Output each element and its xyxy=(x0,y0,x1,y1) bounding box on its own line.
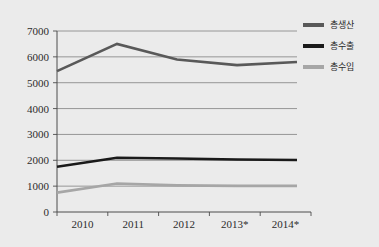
y-axis-tick-label: 7000 xyxy=(27,25,50,37)
y-axis-tick-label: 5000 xyxy=(27,77,50,89)
series-line xyxy=(57,158,297,167)
x-axis-labels: 2010201120122013*2014* xyxy=(71,218,299,230)
legend-label: 총수입 xyxy=(330,63,354,72)
legend-color-swatch xyxy=(303,44,324,48)
series-line xyxy=(57,44,297,71)
x-axis-tick-label: 2014* xyxy=(272,218,300,230)
legend-label: 총수출 xyxy=(330,42,354,51)
y-axis-labels: 01000200030004000500060007000 xyxy=(27,25,50,218)
legend-item-imports[interactable]: 총수입 xyxy=(303,61,354,73)
x-axis-tick-label: 2011 xyxy=(122,218,144,230)
x-axis-tick-label: 2010 xyxy=(71,218,94,230)
legend-color-swatch xyxy=(303,23,324,27)
y-axis-tick-label: 0 xyxy=(44,206,50,218)
legend-label: 총생산 xyxy=(330,21,354,30)
y-axis-tick-label: 3000 xyxy=(27,128,50,140)
y-axis-tick-label: 6000 xyxy=(27,51,50,63)
legend-color-swatch xyxy=(303,65,324,69)
legend-item-exports[interactable]: 총수출 xyxy=(303,40,354,52)
series-line xyxy=(57,184,297,193)
x-axis-tick-label: 2013* xyxy=(221,218,249,230)
chart-container: 01000200030004000500060007000 2010201120… xyxy=(0,0,379,247)
series-lines-group xyxy=(57,44,297,193)
y-axis-tick-label: 2000 xyxy=(27,154,50,166)
chart-legend: 총생산총수출총수입 xyxy=(303,19,354,73)
y-tick-group xyxy=(53,31,57,212)
y-axis-tick-label: 4000 xyxy=(27,103,50,115)
y-axis-tick-label: 1000 xyxy=(27,180,50,192)
x-tick-group xyxy=(57,212,311,216)
x-axis-tick-label: 2012 xyxy=(173,218,195,230)
legend-item-production[interactable]: 총생산 xyxy=(303,19,354,31)
